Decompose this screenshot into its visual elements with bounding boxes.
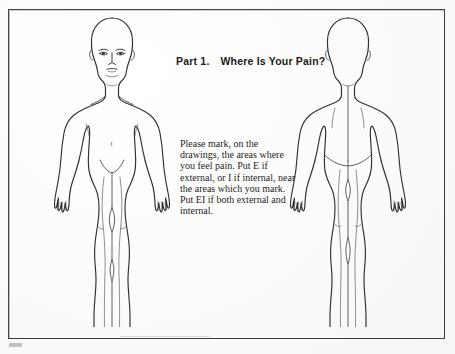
pain-drawing-form-page: Part 1.Where Is Your Pain? Please mark, … — [0, 0, 455, 354]
back-view-body-diagram[interactable] — [278, 12, 418, 327]
scan-artifact-line — [120, 336, 210, 337]
scan-artifact-mark — [9, 343, 22, 347]
front-view-body-diagram[interactable] — [42, 12, 182, 327]
